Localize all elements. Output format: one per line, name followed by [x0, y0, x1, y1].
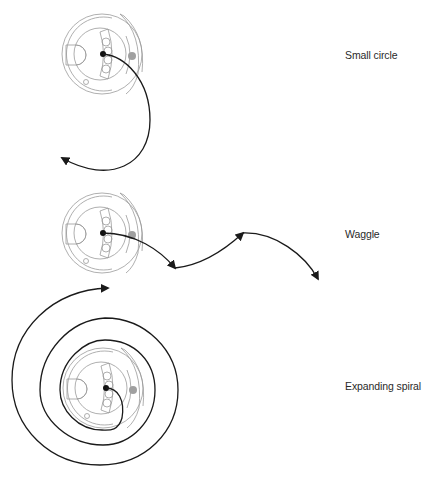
diagram-canvas — [0, 0, 435, 484]
label-waggle: Waggle — [345, 228, 380, 240]
label-expanding-spiral: Expanding spiral — [345, 380, 421, 392]
label-small-circle: Small circle — [345, 49, 397, 61]
waggle-path-3 — [243, 233, 318, 279]
waggle-path-2 — [175, 233, 243, 268]
waggle-path-1 — [103, 233, 175, 268]
small-circle-path — [62, 54, 150, 170]
expanding-spiral-path — [12, 288, 178, 465]
